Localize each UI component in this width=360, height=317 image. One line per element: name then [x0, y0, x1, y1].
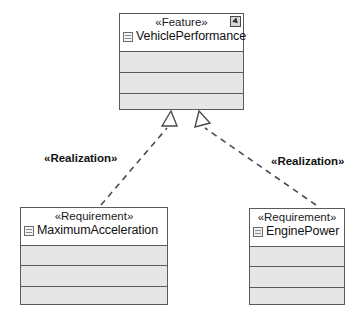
empty-compartment [21, 265, 167, 286]
class-name-row: EnginePower [253, 224, 341, 239]
class-name-row: MaximumAcceleration [24, 223, 164, 238]
hollow-triangle-arrowhead-left [162, 111, 177, 126]
class-header-maximum-acceleration: «Requirement» MaximumAcceleration [21, 208, 167, 245]
uml-class-engine-power[interactable]: «Requirement» EnginePower [249, 208, 345, 305]
empty-compartment [250, 287, 344, 304]
uml-class-maximum-acceleration[interactable]: «Requirement» MaximumAcceleration [20, 207, 168, 305]
class-name: MaximumAcceleration [37, 223, 158, 238]
hollow-triangle-arrowhead-right [195, 111, 210, 127]
stereotype-label: «Requirement» [253, 211, 341, 224]
uml-diagram-canvas: «Feature» VehiclePerformance «Requiremen… [0, 0, 360, 317]
class-name: EnginePower [266, 224, 339, 239]
stereotype-label: «Feature» [123, 16, 240, 29]
class-header-engine-power: «Requirement» EnginePower [250, 209, 344, 246]
block-icon [123, 32, 133, 42]
uml-class-vehicle-performance[interactable]: «Feature» VehiclePerformance [119, 13, 244, 110]
empty-compartment [250, 266, 344, 287]
class-name: VehiclePerformance [136, 29, 246, 44]
class-header-vehicle-performance: «Feature» VehiclePerformance [120, 14, 243, 51]
empty-compartment [120, 93, 243, 109]
edge-label-realization-right: «Realization» [271, 155, 345, 167]
pin-icon[interactable] [230, 16, 241, 27]
empty-compartment [250, 246, 344, 266]
realization-line-left [101, 128, 167, 205]
empty-compartment [120, 51, 243, 72]
edge-label-realization-left: «Realization» [44, 152, 118, 164]
class-name-row: VehiclePerformance [123, 29, 240, 44]
block-icon [253, 227, 263, 237]
block-icon [24, 226, 34, 236]
empty-compartment [120, 72, 243, 93]
empty-compartment [21, 286, 167, 304]
stereotype-label: «Requirement» [24, 210, 164, 223]
empty-compartment [21, 245, 167, 265]
